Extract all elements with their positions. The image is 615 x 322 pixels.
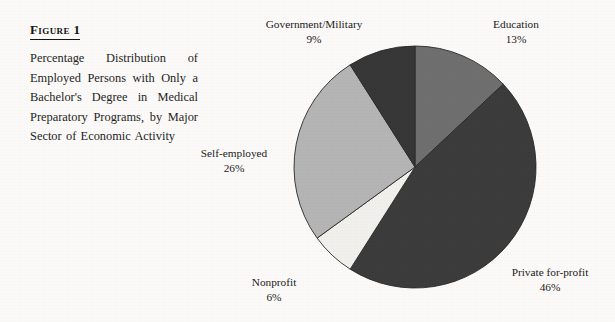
figure-page: Figure 1 Percentage Distribution of Empl…	[0, 0, 615, 322]
slice-name-government-military: Government/Military	[266, 18, 363, 30]
slice-name-nonprofit: Nonprofit	[252, 276, 297, 288]
slice-label-self-employed: Self-employed 26%	[182, 146, 286, 176]
slice-label-education: Education 13%	[470, 17, 562, 47]
slice-pct-government-military: 9%	[253, 32, 375, 47]
slice-pct-self-employed: 26%	[182, 161, 286, 176]
slice-name-self-employed: Self-employed	[201, 147, 268, 159]
pie-slices	[294, 46, 536, 288]
slice-label-private-for-profit: Private for-profit 46%	[491, 265, 609, 295]
slice-pct-education: 13%	[470, 32, 562, 47]
slice-pct-nonprofit: 6%	[232, 290, 316, 305]
slice-name-education: Education	[493, 18, 539, 30]
pie-chart: Government/Military 9% Education 13% Pri…	[0, 0, 615, 322]
slice-label-nonprofit: Nonprofit 6%	[232, 275, 316, 305]
slice-pct-private-for-profit: 46%	[491, 280, 609, 295]
slice-name-private-for-profit: Private for-profit	[512, 266, 589, 278]
slice-label-government-military: Government/Military 9%	[253, 17, 375, 47]
